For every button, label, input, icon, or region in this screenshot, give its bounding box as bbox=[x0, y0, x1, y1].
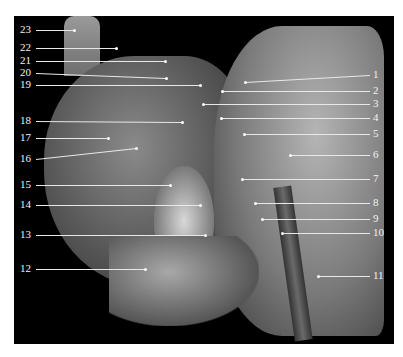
label-number-18: 18 bbox=[20, 115, 31, 126]
leader-dot-18 bbox=[181, 121, 184, 124]
leader-line-2 bbox=[222, 91, 370, 92]
leader-line-6 bbox=[290, 155, 370, 156]
label-number-21: 21 bbox=[20, 55, 31, 66]
label-number-12: 12 bbox=[20, 263, 31, 274]
leader-dot-20 bbox=[165, 77, 168, 80]
label-number-17: 17 bbox=[20, 132, 31, 143]
label-number-3: 3 bbox=[373, 98, 379, 109]
leader-dot-16 bbox=[135, 147, 138, 150]
leader-dot-15 bbox=[169, 184, 172, 187]
leader-line-11 bbox=[318, 276, 370, 277]
leader-dot-22 bbox=[115, 47, 118, 50]
leader-dot-5 bbox=[243, 133, 246, 136]
leader-line-7 bbox=[242, 179, 370, 180]
leader-line-19 bbox=[36, 85, 200, 86]
label-number-7: 7 bbox=[373, 173, 379, 184]
label-number-20: 20 bbox=[20, 67, 31, 78]
label-number-9: 9 bbox=[373, 213, 379, 224]
label-number-14: 14 bbox=[20, 199, 31, 210]
leader-dot-4 bbox=[220, 117, 223, 120]
leader-line-22 bbox=[36, 48, 116, 49]
mandible-region bbox=[109, 236, 259, 326]
leader-line-21 bbox=[36, 61, 165, 62]
leader-dot-1 bbox=[244, 81, 247, 84]
label-number-15: 15 bbox=[20, 179, 31, 190]
label-number-2: 2 bbox=[373, 85, 379, 96]
leader-dot-11 bbox=[317, 275, 320, 278]
leader-dot-6 bbox=[289, 154, 292, 157]
leader-dot-12 bbox=[144, 268, 147, 271]
leader-dot-2 bbox=[221, 90, 224, 93]
leader-line-14 bbox=[36, 205, 200, 206]
leader-dot-13 bbox=[204, 234, 207, 237]
label-number-16: 16 bbox=[20, 153, 31, 164]
leader-line-4 bbox=[221, 118, 370, 119]
label-number-1: 1 bbox=[373, 69, 379, 80]
label-number-5: 5 bbox=[373, 128, 379, 139]
leader-dot-7 bbox=[241, 178, 244, 181]
leader-line-13 bbox=[36, 235, 205, 236]
label-number-22: 22 bbox=[20, 42, 31, 53]
leader-line-9 bbox=[262, 219, 370, 220]
leader-line-23 bbox=[36, 30, 74, 31]
leader-dot-10 bbox=[281, 232, 284, 235]
leader-dot-19 bbox=[199, 84, 202, 87]
leader-dot-8 bbox=[254, 202, 257, 205]
label-number-4: 4 bbox=[373, 112, 379, 123]
leader-line-5 bbox=[244, 134, 370, 135]
leader-line-8 bbox=[255, 203, 370, 204]
label-number-11: 11 bbox=[373, 270, 384, 281]
label-number-10: 10 bbox=[373, 227, 384, 238]
leader-dot-9 bbox=[261, 218, 264, 221]
leader-dot-3 bbox=[202, 103, 205, 106]
label-number-8: 8 bbox=[373, 197, 379, 208]
leader-line-15 bbox=[36, 185, 170, 186]
leader-line-17 bbox=[36, 138, 108, 139]
label-number-13: 13 bbox=[20, 229, 31, 240]
leader-dot-14 bbox=[199, 204, 202, 207]
leader-dot-23 bbox=[73, 29, 76, 32]
dissection-photo bbox=[14, 16, 394, 344]
leader-dot-21 bbox=[164, 60, 167, 63]
label-number-6: 6 bbox=[373, 149, 379, 160]
leader-line-10 bbox=[282, 233, 370, 234]
leader-dot-17 bbox=[107, 137, 110, 140]
label-number-23: 23 bbox=[20, 24, 31, 35]
leader-line-12 bbox=[36, 269, 145, 270]
label-number-19: 19 bbox=[20, 79, 31, 90]
leader-line-3 bbox=[203, 104, 370, 105]
